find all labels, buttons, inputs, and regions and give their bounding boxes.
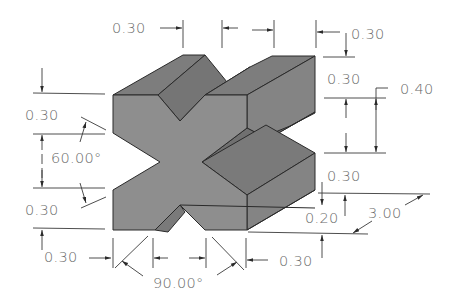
dim-bottom-right: 0.30 bbox=[279, 253, 313, 269]
v-block-drawing: 0.30 0.30 0.30 0.40 0.30 0.20 3.00 bbox=[0, 0, 455, 308]
dim-bottom-left: 0.30 bbox=[44, 249, 78, 265]
v-block-solid bbox=[113, 55, 315, 232]
dim-top-right: 0.30 bbox=[351, 26, 385, 42]
dim-right-upper: 0.30 bbox=[327, 71, 361, 87]
dim-base-step: 0.20 bbox=[305, 210, 339, 226]
dim-bottom-angle: 90.00° bbox=[153, 275, 204, 291]
dim-left-top: 0.30 bbox=[25, 107, 59, 123]
dim-right-slot: 0.40 bbox=[400, 81, 434, 97]
dim-right-lower: 0.30 bbox=[327, 168, 361, 184]
dim-depth: 3.00 bbox=[368, 205, 402, 221]
dim-left-bottom: 0.30 bbox=[25, 202, 59, 218]
dim-left-angle: 60.00° bbox=[51, 150, 102, 166]
dim-top-left: 0.30 bbox=[112, 20, 146, 36]
